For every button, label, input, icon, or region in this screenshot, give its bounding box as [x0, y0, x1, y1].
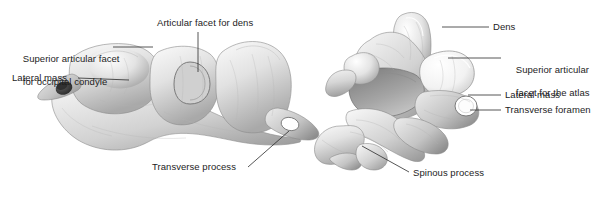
- label-articular-facet-for-dens: Articular facet for dens: [157, 17, 253, 29]
- axis-superior-articular-facet-for-atlas: [420, 51, 475, 96]
- label-superior-articular-facet-occipital-condyle: Superior articular facet for occipital c…: [12, 41, 120, 99]
- label-transverse-process: Transverse process: [152, 161, 236, 173]
- anatomy-figure: Superior articular facet for occipital c…: [0, 0, 594, 197]
- label-dens: Dens: [493, 21, 515, 33]
- label-superior-articular-facet-for-atlas: Superior articular facet for the atlas: [505, 52, 590, 110]
- label-spinous-process: Spinous process: [413, 167, 484, 179]
- axis-bone-group: [314, 12, 478, 170]
- label-transverse-foramen: Transverse foramen: [505, 104, 591, 116]
- label-lateral-mass-right: Lateral mass: [505, 89, 560, 101]
- label-line-1: Superior articular facet: [23, 53, 120, 64]
- label-lateral-mass-left: Lateral mass: [12, 72, 67, 84]
- atlas-articular-facet-for-dens: [174, 62, 210, 104]
- label-line-1: Superior articular: [516, 64, 589, 75]
